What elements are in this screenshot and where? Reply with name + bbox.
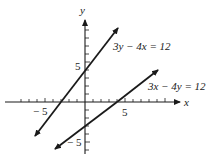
y-axis — [85, 20, 90, 154]
x-tick-label-pos5: 5 — [122, 106, 128, 118]
y-axis-label: y — [79, 4, 85, 16]
x-axis — [5, 98, 180, 102]
y-tick-label-neg5: − 5 — [67, 136, 82, 148]
x-ticks — [21, 98, 165, 102]
line-3y-minus-4x-eq-12 — [61, 28, 118, 102]
graph: y x − 5 5 5 − 5 3y − 4x = 12 3x − 4y = 1… — [0, 0, 220, 156]
line2-equation-label: 3x − 4y = 12 — [147, 80, 206, 92]
y-tick-label-pos5: 5 — [75, 60, 81, 72]
x-tick-label-neg5: − 5 — [33, 105, 48, 117]
x-axis-label: x — [183, 96, 189, 108]
y-ticks — [85, 30, 90, 150]
line1-equation-label: 3y − 4x = 12 — [112, 40, 171, 52]
